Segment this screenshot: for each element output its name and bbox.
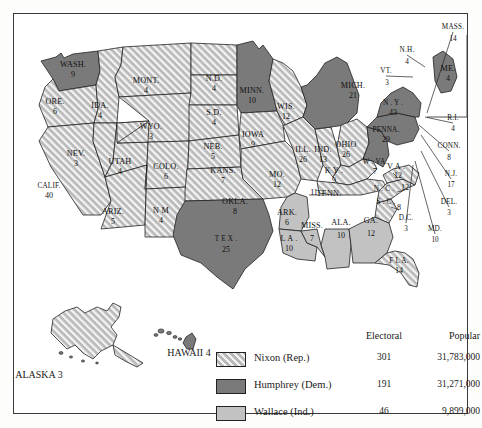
state-label-okla: OKLA. <box>222 197 248 206</box>
callout-votes-ri: 4 <box>451 125 455 133</box>
callout-label-mass: MASS. <box>442 23 464 31</box>
state-label-mo: MO. <box>269 170 285 179</box>
state-votes-wyo: 3 <box>149 132 153 141</box>
state-mont <box>115 43 191 97</box>
callout-votes-del: 3 <box>447 209 451 217</box>
state-label-nc: N . C . <box>374 185 394 193</box>
leader-line-nh <box>407 55 425 67</box>
state-label-ny: N . Y . <box>383 99 403 107</box>
state-votes-la: 10 <box>285 244 293 253</box>
callout-label-vt: VT. <box>380 67 391 75</box>
state-votes-ore: 6 <box>53 107 57 116</box>
state-label-fla: F L A. <box>389 257 409 265</box>
state-label-nm: N M <box>153 206 169 215</box>
state-label-tex: T E X . <box>215 235 237 243</box>
leader-line-md <box>415 161 435 234</box>
state-tex <box>173 199 273 289</box>
callout-votes-mass: 14 <box>449 35 457 43</box>
state-label-ohio: OHIO <box>335 140 356 149</box>
state-votes-neb: 5 <box>211 152 215 161</box>
state-votes-calif: 40 <box>45 191 53 200</box>
state-label-ky: K Y . <box>325 166 343 175</box>
state-label-ore: ORE. <box>45 97 64 106</box>
state-label-ind: IND. <box>314 145 331 154</box>
state-label-kans: KANS. <box>210 166 235 175</box>
state-votes-tex: 25 <box>222 245 230 254</box>
state-label-ill: ILL. <box>295 145 311 154</box>
state-label-ida: IDA. <box>91 101 108 110</box>
state-label-neb: NEB. <box>203 142 222 151</box>
callout-votes-nj: 17 <box>447 181 455 189</box>
state-nd <box>191 43 237 75</box>
state-votes-me: 4 <box>446 74 450 83</box>
state-label-ariz: ARIZ. <box>102 207 124 216</box>
state-votes-sc: 8 <box>397 203 401 212</box>
state-votes-nd: 4 <box>212 84 216 93</box>
state-votes-ala: 10 <box>337 231 345 240</box>
state-votes-minn: 10 <box>248 96 256 105</box>
callout-votes-dc: 3 <box>404 225 408 233</box>
legend-popular-value: 31,271,000 <box>412 379 480 389</box>
state-votes-ny: 43 <box>389 108 397 117</box>
state-label-mich: MICH. <box>341 81 365 90</box>
alaska-inset-caption: ALASKA 3 <box>0 369 119 380</box>
state-votes-wis: 12 <box>282 112 290 121</box>
state-label-penna: PENNA. <box>373 126 400 134</box>
callout-label-md: MD. <box>428 225 442 233</box>
legend-swatch-wallace <box>216 406 246 421</box>
state-votes-mo: 12 <box>273 180 281 189</box>
inset-hawaii-island-2 <box>173 336 177 339</box>
state-votes-ind: 13 <box>319 155 327 164</box>
legend-popular-value: 31,783,000 <box>412 352 480 362</box>
inset-hawaii-island-4 <box>154 334 158 337</box>
callout-label-nh: N.H. <box>400 46 415 54</box>
callout-label-dc: D.C. <box>399 214 413 222</box>
state-label-wash: WASH. <box>60 60 86 69</box>
state-label-nev: NEV. <box>67 149 86 158</box>
state-votes-ga: 12 <box>367 229 375 238</box>
state-label-calif: CALIF. <box>37 182 60 190</box>
state-votes-colo: 6 <box>164 172 168 181</box>
inset-aleutian-0 <box>59 352 63 355</box>
state-label-tenn: TENN. <box>317 189 342 198</box>
legend-header-popular: Popular <box>412 330 480 341</box>
state-votes-wva: 7 <box>373 167 377 176</box>
legend-header-electoral: Electoral <box>364 330 404 341</box>
callout-label-del: DEL. <box>441 198 458 206</box>
state-ala <box>321 229 351 269</box>
state-votes-penna: 29 <box>382 135 390 144</box>
state-label-ark: ARK. <box>277 208 297 217</box>
state-votes-wash: 9 <box>71 70 75 79</box>
legend-candidate-name: Nixon (Rep.) <box>254 352 309 363</box>
legend-candidate-name: Humphrey (Dem.) <box>254 379 332 390</box>
state-votes-ill: 26 <box>299 155 307 164</box>
state-votes-ida: 4 <box>98 111 102 120</box>
map-frame: WASH.9ORE.6CALIF.40IDA.4NEV.3UTAH4ARIZ.5… <box>13 13 468 414</box>
inset-hawaii-island-3 <box>178 338 182 341</box>
callout-votes-vt: 3 <box>385 79 389 87</box>
state-label-la: L A . <box>281 234 298 243</box>
callout-votes-md: 10 <box>431 236 439 244</box>
state-votes-nc: 12 <box>401 183 409 192</box>
state-label-minn: MINN. <box>240 86 265 95</box>
state-votes-iowa: 9 <box>251 140 255 149</box>
state-label-sc: S . C . <box>376 198 395 206</box>
state-votes-tenn: 11 <box>310 188 318 197</box>
state-votes-va: 12 <box>394 171 402 180</box>
election-map-figure: WASH.9ORE.6CALIF.40IDA.4NEV.3UTAH4ARIZ.5… <box>0 0 482 428</box>
state-label-va: V A . <box>387 162 405 171</box>
callout-votes-conn: 8 <box>447 154 451 162</box>
legend-electoral-value: 191 <box>364 379 404 389</box>
state-votes-utah: 4 <box>118 167 122 176</box>
inset-hawaii-island-1 <box>167 331 172 334</box>
leader-line-vt <box>386 76 413 77</box>
callout-label-ri: R.I. <box>447 114 459 122</box>
legend-candidate-name: Wallace (Ind.) <box>254 406 314 417</box>
inset-aleutian-3 <box>96 362 99 364</box>
state-label-ala: ALA. <box>331 218 351 227</box>
state-votes-miss: 7 <box>310 234 314 243</box>
callout-label-conn: CONN. <box>437 142 460 150</box>
callout-votes-nh: 4 <box>405 58 409 66</box>
state-votes-ohio: 26 <box>342 150 350 159</box>
state-label-utah: UTAH <box>109 157 132 166</box>
